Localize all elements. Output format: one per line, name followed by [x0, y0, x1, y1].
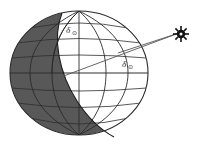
- sun-symbol: [173, 26, 189, 42]
- diagram-canvas: δ ⊙ δ ⊙: [0, 0, 198, 146]
- sun-ray: [184, 37, 187, 40]
- sun-ray: [175, 37, 178, 40]
- solar-declination-figure: δ ⊙ δ ⊙: [0, 0, 198, 146]
- sun-ray: [175, 28, 178, 31]
- declination-subscript-lower: ⊙: [128, 64, 133, 70]
- declination-subscript-upper: ⊙: [72, 30, 77, 36]
- sun-ray: [184, 28, 187, 31]
- sun-center-dot: [180, 33, 183, 36]
